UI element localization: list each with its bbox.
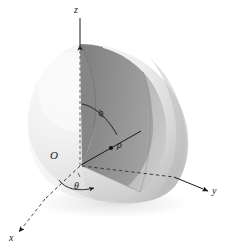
origin-label: O <box>50 150 58 161</box>
figure-canvas <box>0 0 225 249</box>
axis-label-y: y <box>212 186 216 196</box>
axis-label-x: x <box>9 233 13 243</box>
axis-label-z: z <box>74 5 78 15</box>
rho-point-marker <box>109 146 113 150</box>
spherical-coordinates-figure: z y x O ϕ ρ θ <box>0 0 225 249</box>
y-axis-solid <box>174 177 208 191</box>
radial-distance-label: ρ <box>117 140 122 150</box>
azimuthal-angle-label: θ <box>74 181 79 191</box>
